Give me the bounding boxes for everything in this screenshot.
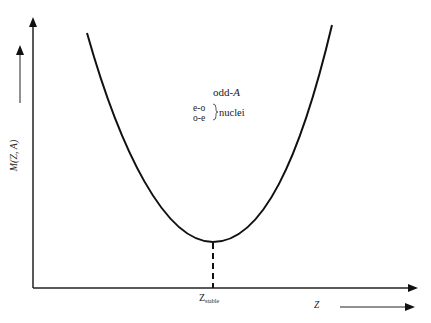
x-axis-label: Z <box>314 300 319 310</box>
mass-parabola-curve <box>87 25 332 242</box>
nuclei-label: nuclei <box>219 107 245 118</box>
odd-a-label: odd-A <box>213 86 240 98</box>
mass-parabola-diagram <box>0 0 431 323</box>
y-axis-label: M(Z, A) <box>8 140 19 171</box>
nucleus-types: e-o o-e <box>193 103 205 123</box>
brace <box>213 104 218 120</box>
z-stable-label: Zstable <box>199 292 219 304</box>
